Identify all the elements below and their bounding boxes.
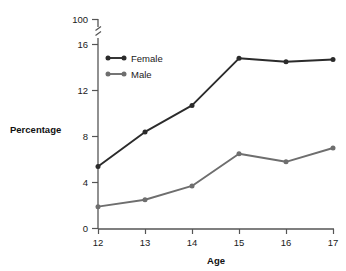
x-tick-labels: 12 13 14 15 16 17	[93, 237, 339, 248]
data-point	[143, 197, 148, 202]
data-point	[96, 204, 101, 209]
x-axis-title: Age	[207, 255, 225, 266]
line-chart: 0 4 8 12 16 100 12 13 14 15 16 17 Percen…	[0, 0, 346, 271]
y-tick-label-100: 100	[72, 14, 88, 25]
y-tick-marks	[92, 20, 98, 229]
data-point	[331, 146, 336, 151]
y-tick-label-12: 12	[77, 85, 88, 96]
data-point	[143, 129, 148, 134]
series-line-male	[98, 148, 333, 207]
chart-legend: FemaleMale	[106, 53, 163, 80]
series-male	[96, 146, 336, 210]
x-tick-label-15: 15	[234, 237, 245, 248]
legend-swatch-marker	[106, 72, 111, 77]
legend-swatch-marker	[122, 56, 127, 61]
axis-group	[96, 19, 335, 229]
data-point	[331, 57, 336, 62]
data-point	[190, 183, 195, 188]
y-tick-label-4: 4	[83, 177, 88, 188]
data-point	[284, 159, 289, 164]
y-tick-label-8: 8	[83, 131, 88, 142]
x-tick-label-16: 16	[281, 237, 292, 248]
legend-swatch-marker	[106, 56, 111, 61]
y-tick-label-16: 16	[77, 39, 88, 50]
data-point	[96, 164, 101, 169]
data-point	[237, 56, 242, 61]
legend-label: Male	[131, 69, 152, 80]
legend-swatch-marker	[122, 72, 127, 77]
y-tick-labels: 0 4 8 12 16 100	[72, 14, 88, 234]
legend-item-male[interactable]: Male	[106, 69, 152, 80]
x-tick-label-17: 17	[328, 237, 339, 248]
y-tick-label-0: 0	[83, 223, 88, 234]
x-tick-label-12: 12	[93, 237, 104, 248]
data-point	[237, 151, 242, 156]
x-tick-marks	[99, 229, 334, 234]
chart-canvas: 0 4 8 12 16 100 12 13 14 15 16 17 Percen…	[0, 0, 346, 271]
y-axis-break-icon	[96, 27, 102, 36]
legend-label: Female	[131, 53, 163, 64]
legend-item-female[interactable]: Female	[106, 53, 163, 64]
data-point	[284, 59, 289, 64]
x-tick-label-13: 13	[140, 237, 151, 248]
y-axis-title: Percentage	[10, 124, 61, 135]
x-tick-label-14: 14	[187, 237, 198, 248]
data-point	[190, 103, 195, 108]
